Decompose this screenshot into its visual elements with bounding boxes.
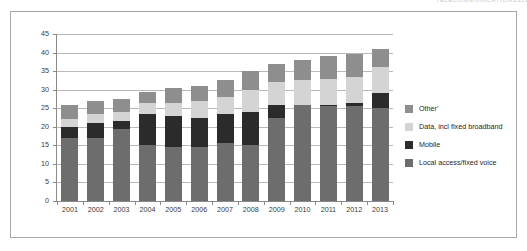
x-tick-mark (186, 201, 187, 205)
bar-segment (61, 138, 78, 201)
legend-swatch-icon (405, 159, 413, 167)
legend-label: Local access/fixed voice (419, 159, 497, 166)
legend-swatch-icon (405, 123, 413, 131)
x-tick-mark (238, 201, 239, 205)
y-tick-label: 40 (33, 49, 49, 56)
x-tick-mark (393, 201, 394, 205)
page-number: 213 (518, 0, 527, 3)
x-tick-mark (264, 201, 265, 205)
x-tick-mark (290, 201, 291, 205)
bar-segment (268, 118, 285, 202)
x-tick-mark (315, 201, 316, 205)
running-header: TELECOMMUNICATIONS 213 (0, 0, 527, 9)
legend-item[interactable]: Mobile (405, 140, 525, 149)
y-tick-label: 25 (33, 104, 49, 111)
y-tick-mark (53, 164, 57, 165)
y-tick-mark (53, 71, 57, 72)
bar-segment (217, 114, 234, 144)
legend-label: Data, incl fixed broadband (419, 123, 503, 130)
y-tick-label: 20 (33, 123, 49, 130)
bar[interactable] (217, 80, 234, 201)
plot-area: 051015202530354045 200120022003200420052… (57, 34, 393, 201)
y-axis-line (56, 34, 57, 202)
legend-item[interactable]: Other' (405, 104, 525, 113)
bar-segment (113, 99, 130, 112)
y-tick-mark (53, 90, 57, 91)
y-tick-label: 0 (33, 197, 49, 204)
gridline (57, 53, 393, 54)
x-tick-mark (83, 201, 84, 205)
bar[interactable] (372, 49, 389, 201)
bar[interactable] (87, 101, 104, 201)
y-tick-label: 15 (33, 141, 49, 148)
bar-segment (139, 92, 156, 103)
bar[interactable] (346, 54, 363, 201)
bar-segment (346, 54, 363, 76)
y-tick-mark (53, 53, 57, 54)
legend-item[interactable]: Data, incl fixed broadband (405, 122, 525, 131)
bar-segment (165, 116, 182, 148)
bar[interactable] (242, 71, 259, 201)
bar-segment (139, 114, 156, 146)
y-tick-label: 30 (33, 86, 49, 93)
x-tick-mark (135, 201, 136, 205)
bar-segment (294, 60, 311, 80)
bar-segment (242, 71, 259, 90)
bar-segment (113, 112, 130, 121)
y-tick-label: 35 (33, 67, 49, 74)
y-tick-mark (53, 127, 57, 128)
bar-segment (320, 106, 337, 201)
x-tick-mark (57, 201, 58, 205)
bar-segment (242, 145, 259, 201)
bar[interactable] (294, 60, 311, 201)
bar-segment (87, 138, 104, 201)
legend-label: Other' (419, 105, 438, 112)
bar-segment (87, 123, 104, 138)
bar-segment (165, 103, 182, 116)
x-tick-mark (160, 201, 161, 205)
bar-segment (294, 80, 311, 104)
y-tick-mark (53, 34, 57, 35)
x-tick-mark (109, 201, 110, 205)
y-tick-mark (53, 182, 57, 183)
y-tick-mark (53, 108, 57, 109)
legend-item[interactable]: Local access/fixed voice (405, 158, 525, 167)
bar[interactable] (320, 56, 337, 201)
chart-legend: Other'Data, incl fixed broadbandMobileLo… (405, 104, 525, 176)
bar-segment (217, 97, 234, 114)
bar[interactable] (113, 99, 130, 201)
bar-segment (191, 118, 208, 148)
y-tick-label: 5 (33, 178, 49, 185)
bar-segment (242, 90, 259, 112)
bar-segment (268, 105, 285, 118)
running-head-text: TELECOMMUNICATIONS (436, 0, 517, 3)
bar-segment (113, 121, 130, 128)
y-tick-mark (53, 145, 57, 146)
bar[interactable] (61, 105, 78, 201)
bar[interactable] (165, 88, 182, 201)
bar[interactable] (139, 92, 156, 201)
x-tick-mark (341, 201, 342, 205)
bar-segment (346, 77, 363, 103)
legend-swatch-icon (405, 105, 413, 113)
bar-segment (320, 79, 337, 105)
bar-segment (113, 129, 130, 201)
bar-segment (372, 93, 389, 108)
bar-segment (372, 49, 389, 68)
bar-segment (191, 101, 208, 118)
x-tick-mark (212, 201, 213, 205)
bar-segment (61, 105, 78, 120)
bar-segment (139, 103, 156, 114)
bar-segment (268, 64, 285, 83)
bar-segment (346, 106, 363, 201)
x-tick-mark (367, 201, 368, 205)
bar-segment (87, 114, 104, 123)
x-tick-label: 2013 (365, 206, 395, 213)
bar-segment (217, 143, 234, 201)
bar[interactable] (191, 86, 208, 201)
bar-segment (61, 119, 78, 126)
gridline (57, 71, 393, 72)
bar-segment (87, 101, 104, 114)
bar[interactable] (268, 64, 285, 201)
bar-segment (294, 105, 311, 201)
